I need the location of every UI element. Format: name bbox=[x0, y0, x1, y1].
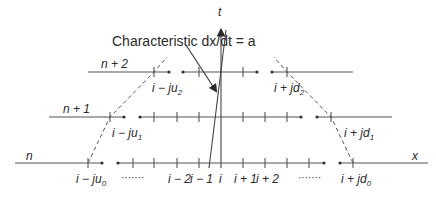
label-i-plus-jd2: i + jd2 bbox=[274, 81, 305, 97]
label-i-minus-2: i − 2 bbox=[168, 172, 191, 186]
t-axis-label: t bbox=[218, 5, 222, 19]
dots-right: ······· bbox=[298, 172, 321, 183]
dots-left: ······· bbox=[121, 172, 144, 183]
characteristic-label: Characteristic dx/dt = a bbox=[112, 33, 256, 49]
label-i-minus-ju0: i − ju0 bbox=[76, 172, 107, 188]
characteristic-line bbox=[209, 30, 226, 168]
label-i-plus-jd1: i + jd1 bbox=[344, 126, 374, 142]
right-domain-boundary bbox=[274, 57, 353, 163]
row-label-n: n bbox=[26, 149, 33, 163]
row-label-n2: n + 2 bbox=[101, 57, 128, 71]
annotation-arrow bbox=[186, 45, 216, 91]
label-i-minus-1: i − 1 bbox=[190, 172, 213, 186]
label-i-minus-ju2: i − ju2 bbox=[152, 81, 183, 97]
row-label-n1: n + 1 bbox=[63, 102, 90, 116]
characteristic-stencil-diagram: Characteristic dx/dt = a t x n n + 1 n +… bbox=[0, 0, 436, 199]
label-i: i bbox=[219, 172, 222, 186]
label-i-plus-jd0: i + jd0 bbox=[341, 172, 372, 188]
x-axis-label: x bbox=[411, 149, 419, 163]
diagram-canvas: Characteristic dx/dt = a t x n n + 1 n +… bbox=[0, 0, 436, 199]
label-i-plus-1: i + 1 bbox=[234, 172, 257, 186]
label-i-minus-ju1: i − ju1 bbox=[112, 126, 142, 142]
label-i-plus-2: i + 2 bbox=[256, 172, 279, 186]
left-domain-boundary bbox=[88, 57, 167, 163]
